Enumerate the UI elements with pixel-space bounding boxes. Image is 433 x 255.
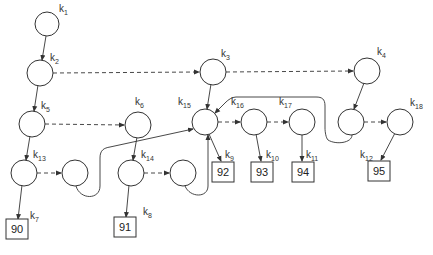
label-k16: k16 [231, 96, 244, 109]
node-k4 [354, 58, 380, 84]
node-k14-sibling [170, 160, 196, 186]
node-k13 [11, 160, 37, 186]
label-k11: k11 [306, 149, 318, 162]
label-k3: k3 [221, 48, 230, 61]
edge-k13-leaf90 [18, 185, 22, 219]
link-k5-k6 [45, 124, 124, 125]
label-k6: k6 [135, 96, 144, 109]
node-k15 [192, 109, 218, 135]
leaf-value: 91 [119, 221, 131, 233]
label-k1: k1 [59, 3, 68, 16]
label-k18: k18 [410, 97, 423, 110]
leaf-90: 90 [6, 219, 28, 239]
label-k13: k13 [33, 149, 46, 162]
node-k2 [27, 60, 53, 86]
node-k1 [35, 12, 59, 36]
leaf-value: 93 [256, 166, 268, 178]
link-k3-k4 [226, 71, 353, 72]
edge-k6-k14 [133, 137, 137, 160]
edge-k3-k15 [207, 84, 211, 109]
label-k4: k4 [377, 46, 386, 59]
leaf-93: 93 [251, 162, 273, 182]
node-k18 [387, 109, 413, 135]
node-k17 [289, 109, 315, 135]
linked-tree-diagram: 90 91 92 93 94 95 k1 k2 k3 k4 k5 k6 k13 … [0, 0, 433, 255]
node-k5 [19, 111, 45, 137]
node-k4-child [338, 109, 364, 135]
label-k15: k15 [178, 96, 191, 109]
link-k2-k3 [53, 72, 199, 73]
node-k3 [200, 59, 226, 85]
label-k14: k14 [141, 149, 154, 162]
edge-k2-k5 [34, 85, 38, 111]
leaf-91: 91 [114, 217, 136, 237]
edge-k14-leaf91 [126, 185, 129, 217]
label-k8: k8 [143, 206, 152, 219]
node-k6 [125, 112, 151, 138]
node-k16 [241, 109, 267, 135]
leaf-92: 92 [212, 162, 234, 182]
edge-k4-node [354, 83, 364, 109]
label-k17: k17 [279, 96, 292, 109]
edge-k18-leaf95 [381, 133, 395, 160]
leaf-95: 95 [368, 161, 390, 181]
leaf-value: 95 [373, 165, 385, 177]
label-k5: k5 [41, 100, 50, 113]
label-k10: k10 [266, 149, 279, 162]
edge-k16-leaf93 [256, 134, 261, 161]
label-k12: k12 [360, 149, 373, 162]
edge-k1-k2 [42, 36, 46, 60]
label-k9: k9 [225, 149, 234, 162]
node-k14 [118, 160, 144, 186]
label-k7: k7 [30, 210, 39, 223]
edge-k15-leaf92 [209, 134, 221, 161]
node-k13-sibling [62, 160, 88, 186]
leaf-94: 94 [292, 162, 314, 182]
leaf-value: 92 [217, 166, 229, 178]
label-k2: k2 [50, 52, 59, 65]
leaf-value: 94 [297, 166, 309, 178]
leaf-value: 90 [11, 223, 23, 235]
edge-k5-k13 [26, 136, 30, 160]
